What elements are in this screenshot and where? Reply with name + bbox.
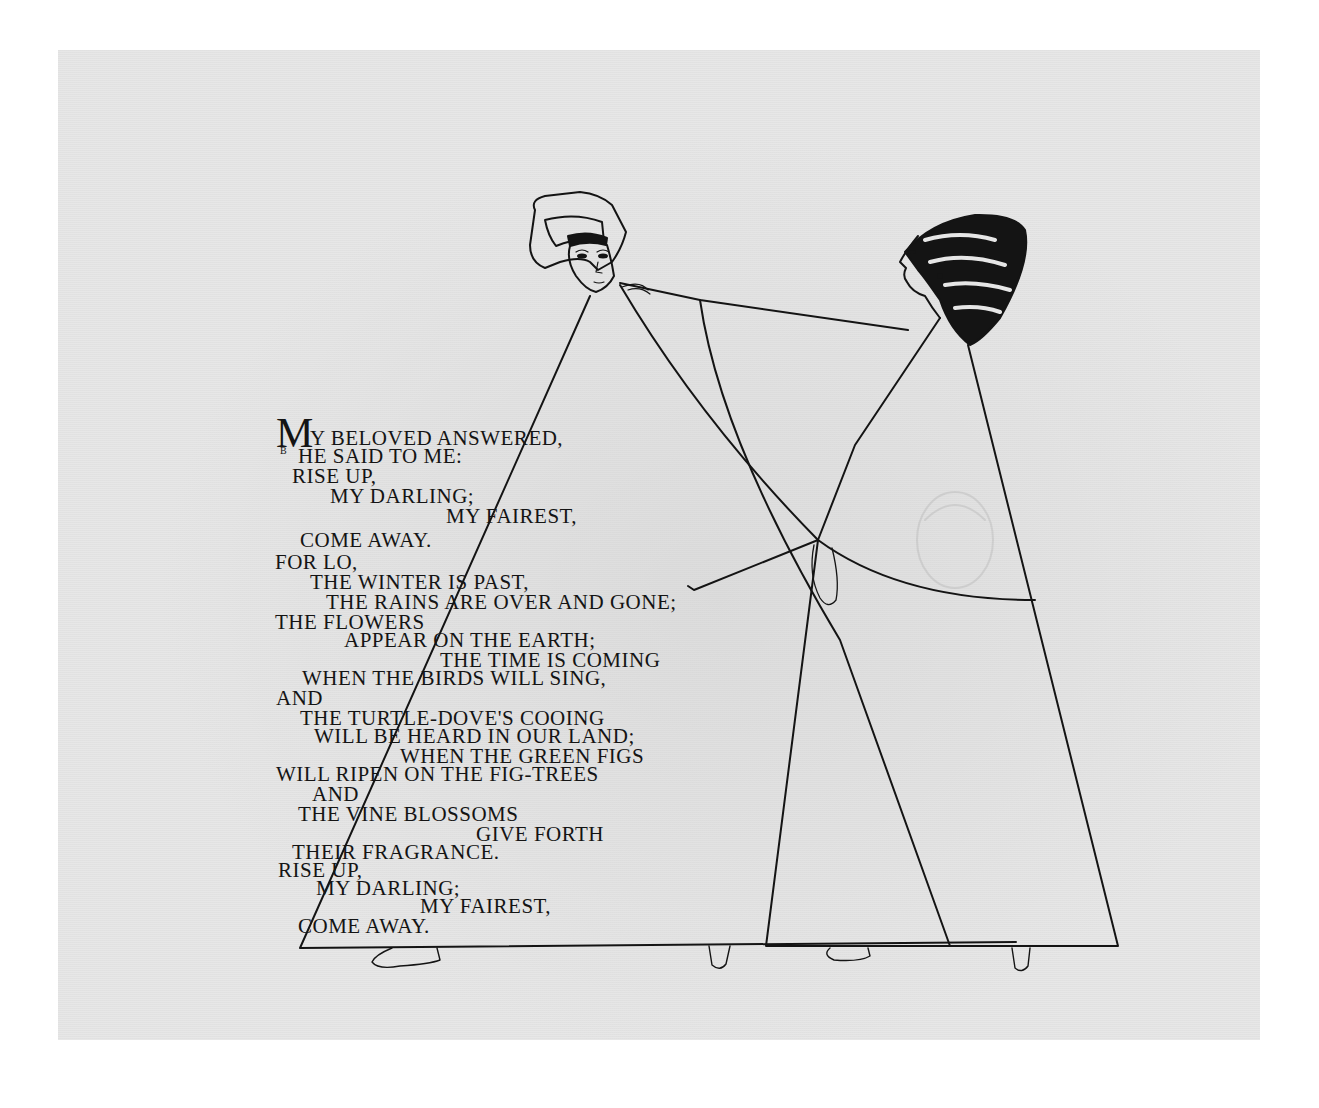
poem-line: my fairest, — [420, 896, 551, 917]
woman-figure — [620, 215, 1118, 971]
ghost-show-through-face — [917, 492, 993, 588]
poem-line: come away. — [300, 530, 432, 551]
line-drawing-illustration — [0, 0, 1319, 1108]
poem-line: come away. — [298, 916, 430, 937]
poem-line: my fairest, — [446, 506, 577, 527]
poem-line: when the birds will sing, — [302, 668, 606, 689]
small-initial: B — [280, 446, 287, 456]
